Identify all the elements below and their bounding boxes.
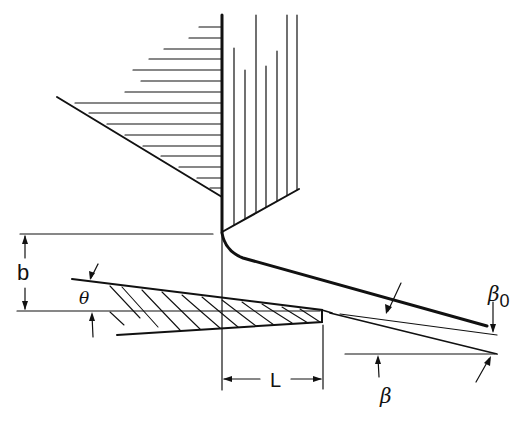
label-L: L bbox=[270, 370, 281, 390]
left-diagonal-edge bbox=[57, 97, 222, 197]
chip-upper-curve bbox=[222, 233, 487, 326]
beta-arrowhead-left-icon bbox=[375, 355, 381, 364]
theta-arrowhead-bottom-icon bbox=[89, 312, 95, 321]
L-arrowhead-right-icon bbox=[313, 376, 322, 382]
label-beta0-subscript: 0 bbox=[500, 291, 510, 311]
label-theta: θ bbox=[79, 290, 89, 307]
left-hatch-region bbox=[75, 27, 222, 188]
diagram-canvas bbox=[0, 0, 525, 422]
beta-arrowhead-right-icon bbox=[484, 356, 491, 366]
label-beta: β bbox=[380, 386, 392, 406]
label-b: b bbox=[17, 262, 29, 284]
beta0-arrowhead-right-icon bbox=[490, 324, 496, 333]
b-arrowhead-down-icon bbox=[22, 301, 28, 310]
label-beta0: β0 bbox=[488, 284, 510, 304]
right-hatch-region bbox=[234, 15, 297, 225]
chip-lower-line bbox=[330, 313, 497, 354]
label-beta0-symbol: β bbox=[488, 282, 500, 306]
beta0-reference-line bbox=[340, 314, 497, 335]
wedge-tip-link bbox=[322, 310, 332, 313]
b-arrowhead-up-icon bbox=[22, 235, 28, 244]
L-arrowhead-left-icon bbox=[223, 376, 232, 382]
